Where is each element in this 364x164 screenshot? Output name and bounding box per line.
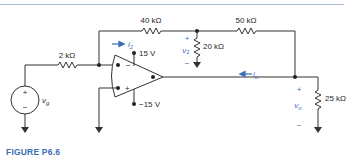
op-amp-vneg-label: −15 V — [139, 100, 161, 109]
resistor-icon — [237, 28, 256, 34]
voltage-v1: + v1 − — [182, 34, 189, 68]
voltage-vo: + vo − — [294, 85, 302, 130]
resistor-icon — [194, 31, 200, 63]
resistor-2k: 2 kΩ — [58, 51, 118, 68]
op-amp: − + 15 V −15 V — [112, 49, 164, 109]
op-amp-inverting-sign: − — [126, 61, 131, 70]
resistor-25k-label: 25 kΩ — [325, 94, 346, 103]
vo-minus: − — [297, 121, 302, 130]
resistor-icon — [315, 88, 321, 128]
op-amp-noninverting-sign: + — [125, 84, 130, 93]
node-dot — [293, 75, 297, 79]
io-label: io — [253, 70, 259, 80]
ground-icon — [314, 127, 322, 133]
op-amp-triangle-icon — [112, 55, 164, 97]
source-plus: + — [23, 88, 28, 97]
resistor-40k: 40 kΩ — [140, 16, 237, 34]
vo-plus: + — [297, 85, 302, 94]
ground-icon — [95, 127, 103, 133]
resistor-icon — [58, 62, 77, 68]
resistor-40k-label: 40 kΩ — [140, 16, 161, 25]
ground-icon — [193, 62, 201, 68]
voltage-source-vg: + − vg — [11, 65, 58, 133]
v1-label: v1 — [182, 46, 189, 55]
source-label: vg — [42, 96, 50, 106]
resistor-20k-label: 20 kΩ — [203, 42, 224, 51]
current-i2: i2 — [112, 40, 134, 50]
resistor-50k-label: 50 kΩ — [235, 16, 256, 25]
source-minus: − — [23, 103, 28, 112]
v1-plus: + — [185, 34, 190, 43]
current-io: io — [242, 70, 259, 80]
resistor-icon — [142, 28, 161, 34]
resistor-20k: 20 kΩ — [193, 31, 224, 68]
resistor-2k-label: 2 kΩ — [59, 51, 76, 60]
figure-caption: FIGURE P6.6 — [6, 147, 60, 157]
vo-label: vo — [294, 101, 302, 111]
ground-icon — [21, 127, 29, 133]
resistor-50k: 50 kΩ — [235, 16, 295, 77]
circuit-diagram: + − vg 2 kΩ 40 kΩ i2 20 kΩ + v1 − — [0, 0, 364, 164]
v1-minus: − — [185, 59, 190, 68]
op-amp-vpos-label: 15 V — [139, 49, 156, 58]
i2-label: i2 — [128, 40, 134, 50]
resistor-25k: 25 kΩ — [314, 88, 346, 133]
